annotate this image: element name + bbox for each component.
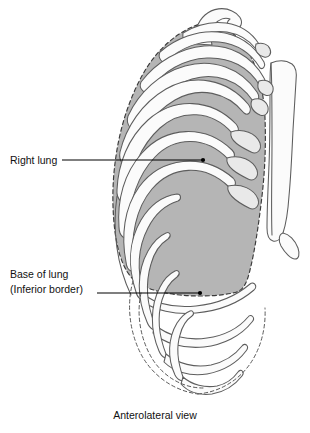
label-base-of-lung-line2: (Inferior border): [10, 283, 83, 295]
label-base-of-lung-line1: Base of lung: [10, 268, 69, 280]
anatomy-illustration: Right lung Base of lung (Inferior border…: [0, 0, 310, 433]
leader-endpoint-dot: [198, 291, 202, 295]
label-right-lung: Right lung: [10, 154, 57, 166]
leader-endpoint-dot: [201, 158, 205, 162]
figure-container: Right lung Base of lung (Inferior border…: [0, 0, 310, 433]
figure-caption: Anterolateral view: [113, 409, 197, 421]
xiphoid-process-bone: [279, 233, 299, 259]
pleura-dashed-lower: [130, 281, 266, 394]
